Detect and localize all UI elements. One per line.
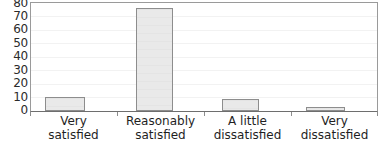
- x-axis-label-very-satisfied: Very satisfied: [30, 114, 117, 142]
- bar-very-satisfied[interactable]: [45, 97, 85, 111]
- y-tick-label-70: 70: [2, 10, 28, 22]
- bar-reasonably-satisfied[interactable]: [136, 8, 173, 111]
- x-axis-label-line2: satisfied: [117, 128, 204, 142]
- x-axis-label-a-little-dissatisfied: A little dissatisfied: [204, 114, 291, 142]
- x-axis-label-very-dissatisfied: Very dissatisfied: [291, 114, 378, 142]
- x-axis-label-line2: dissatisfied: [291, 128, 378, 142]
- y-tick-label-50: 50: [2, 37, 28, 49]
- bar-a-little-dissatisfied[interactable]: [222, 99, 259, 111]
- y-tick-label-0: 0: [2, 104, 28, 116]
- x-axis-label-line1: A little: [204, 114, 291, 128]
- bar-chart: 80 70 60 50 40 30 20 10 0: [0, 0, 386, 143]
- y-tick-label-10: 10: [2, 91, 28, 103]
- x-axis-label-reasonably-satisfied: Reasonably satisfied: [117, 114, 204, 142]
- plot-area: [30, 2, 378, 112]
- y-tick-label-60: 60: [2, 23, 28, 35]
- x-axis-label-line1: Reasonably: [117, 114, 204, 128]
- bar-very-dissatisfied[interactable]: [306, 107, 345, 111]
- y-tick-label-20: 20: [2, 77, 28, 89]
- y-tick-label-30: 30: [2, 64, 28, 76]
- y-axis-labels: 80 70 60 50 40 30 20 10 0: [0, 0, 28, 143]
- bars-layer: [31, 3, 377, 111]
- x-axis-label-line1: Very: [30, 114, 117, 128]
- x-axis-label-line2: dissatisfied: [204, 128, 291, 142]
- x-axis-label-line1: Very: [291, 114, 378, 128]
- x-axis-label-line2: satisfied: [30, 128, 117, 142]
- y-tick-label-80: 80: [2, 0, 28, 9]
- y-tick-label-40: 40: [2, 50, 28, 62]
